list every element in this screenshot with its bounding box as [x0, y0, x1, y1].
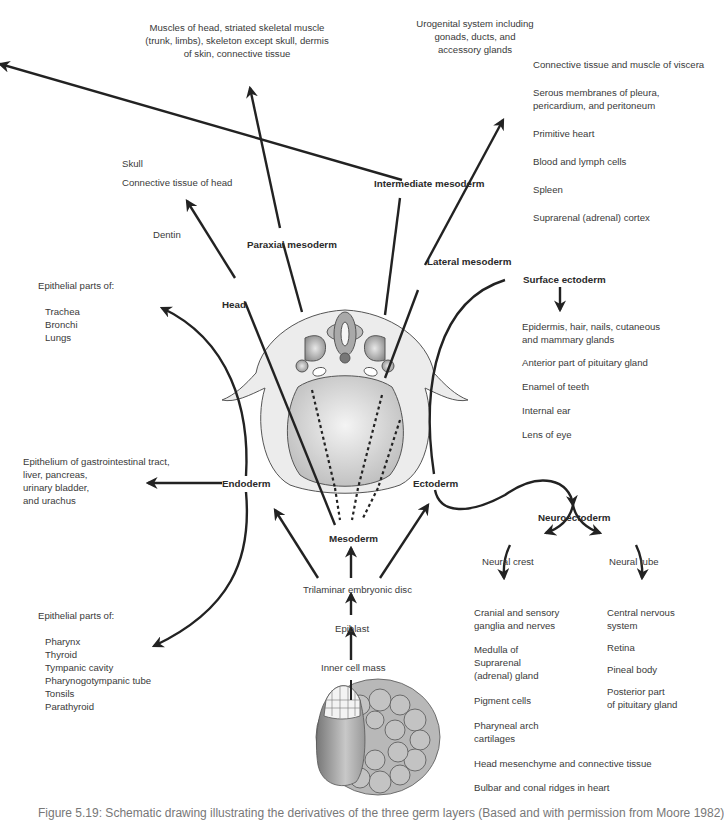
endoderm-middle-line: urinary bladder, — [23, 481, 170, 494]
surface-ectoderm-derivative: Anterior part of pituitary gland — [522, 356, 648, 369]
endoderm-upper-item: Trachea — [38, 305, 114, 318]
lateral-derivative-item: Connective tissue and muscle of viscera — [533, 58, 704, 71]
intermediate-derivatives: Urogenital system including gonads, duct… — [400, 17, 550, 56]
paraxial-derivative-line: Muscles of head, striated skeletal muscl… — [117, 21, 357, 34]
lateral-derivative-item: Suprarenal (adrenal) cortex — [533, 211, 650, 224]
endoderm-lower-item: Tonsils — [38, 687, 151, 700]
head-label: Head — [222, 298, 246, 311]
surface-ectoderm-label: Surface ectoderm — [523, 273, 606, 286]
endoderm-lower-item: Pharynx — [38, 635, 151, 648]
lateral-derivative-item: Blood and lymph cells — [533, 155, 626, 168]
epiblast-label: Epiblast — [335, 622, 369, 635]
neural-crest-derivative: Pigment cells — [474, 694, 531, 707]
paraxial-derivative-line: of skin, connective tissue — [117, 47, 357, 60]
neural-crest-label: Neural crest — [482, 555, 534, 568]
endoderm-middle-line: and urachus — [23, 494, 170, 507]
endoderm-upper-derivatives: Epithelial parts of: Trachea Bronchi Lun… — [38, 279, 114, 344]
endoderm-lower-heading: Epithelial parts of: — [38, 609, 151, 622]
endoderm-upper-heading: Epithelial parts of: — [38, 279, 114, 292]
neural-tube-derivative: Retina — [607, 641, 635, 654]
neural-tube-derivative: Pineal body — [607, 663, 657, 676]
lateral-derivative-item: Spleen — [533, 183, 563, 196]
inner-cell-mass-label: Inner cell mass — [321, 661, 386, 674]
surface-ectoderm-derivative: and mammary glands — [522, 333, 614, 346]
blastocyst-drawing — [316, 679, 440, 795]
endoderm-upper-item: Bronchi — [38, 318, 114, 331]
mesoderm-label: Mesoderm — [329, 532, 378, 545]
endoderm-lower-item: Thyroid — [38, 648, 151, 661]
intermediate-derivative-line: Urogenital system including — [400, 17, 550, 30]
endoderm-lower-derivatives: Epithelial parts of: Pharynx Thyroid Tym… — [38, 609, 151, 713]
head-derivative-item: Dentin — [153, 228, 181, 241]
lateral-derivative-item: Primitive heart — [533, 127, 594, 140]
neural-crest-derivative: (adrenal) gland — [474, 669, 539, 682]
intermediate-derivative-line: gonads, ducts, and — [400, 30, 550, 43]
lateral-derivative-item: Serous membranes of pleura, — [533, 86, 659, 99]
endoderm-middle-line: liver, pancreas, — [23, 468, 170, 481]
surface-ectoderm-derivative: Lens of eye — [522, 428, 572, 441]
lateral-mesoderm-label: Lateral mesoderm — [427, 255, 511, 268]
neural-crest-derivative: ganglia and nerves — [474, 619, 555, 632]
neural-crest-derivative: Head mesenchyme and connective tissue — [474, 757, 652, 770]
endoderm-lower-item: Parathyroid — [38, 700, 151, 713]
neural-crest-derivative: Suprarenal — [474, 656, 521, 669]
trilaminar-disc-label: Trilaminar embryonic disc — [303, 583, 412, 596]
neural-tube-derivative: system — [607, 619, 637, 632]
endoderm-lower-item: Tympanic cavity — [38, 661, 151, 674]
surface-ectoderm-derivative: Internal ear — [522, 404, 571, 417]
surface-ectoderm-derivative: Epidermis, hair, nails, cutaneous — [522, 320, 660, 333]
intermediate-mesoderm-label: Intermediate mesoderm — [374, 177, 485, 190]
neural-crest-derivative: Medulla of — [474, 643, 518, 656]
neural-crest-derivative: Pharyneal arch — [474, 719, 539, 732]
paraxial-derivative-line: (trunk, limbs), skeleton except skull, d… — [117, 34, 357, 47]
neural-tube-label: Neural tube — [609, 555, 659, 568]
ectoderm-label: Ectoderm — [413, 477, 458, 490]
neural-tube-derivative: Central nervous — [607, 606, 675, 619]
neural-crest-derivative: cartilages — [474, 732, 515, 745]
neural-crest-derivative: Cranial and sensory — [474, 606, 559, 619]
figure-caption: Figure 5.19: Schematic drawing illustrat… — [38, 806, 724, 820]
endoderm-middle-line: Epithelium of gastrointestinal tract, — [23, 455, 170, 468]
neural-tube-derivative: of pituitary gland — [607, 698, 677, 711]
neural-tube-derivative: Posterior part — [607, 685, 665, 698]
intermediate-derivative-line: accessory glands — [400, 43, 550, 56]
endoderm-upper-item: Lungs — [38, 331, 114, 344]
head-derivative-item: Connective tissue of head — [122, 176, 232, 189]
paraxial-derivatives: Muscles of head, striated skeletal muscl… — [117, 21, 357, 60]
endoderm-label: Endoderm — [222, 477, 270, 490]
neural-crest-derivative: Bulbar and conal ridges in heart — [474, 781, 609, 794]
lateral-derivative-item: pericardium, and peritoneum — [533, 99, 655, 112]
surface-ectoderm-derivative: Enamel of teeth — [522, 380, 589, 393]
endoderm-middle-derivatives: Epithelium of gastrointestinal tract, li… — [23, 455, 170, 507]
endoderm-lower-item: Pharynogotympanic tube — [38, 674, 151, 687]
neuroectoderm-label: Neuroectoderm — [538, 511, 610, 524]
head-derivative-item: Skull — [122, 157, 143, 170]
paraxial-mesoderm-label: Paraxial mesoderm — [247, 238, 337, 251]
